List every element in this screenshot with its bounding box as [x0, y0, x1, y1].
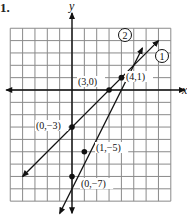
- label-point-1-neg5: (1,−5): [96, 142, 121, 154]
- label-point-3-0: (3,0): [78, 76, 97, 88]
- label-point-4-1: (4,1): [126, 71, 145, 83]
- y-axis-label: y: [68, 0, 75, 13]
- label-point-0-neg3: (0,−3): [36, 120, 61, 132]
- label-point-0-neg7: (0,−7): [81, 178, 106, 190]
- x-axis-label: x: [181, 83, 187, 97]
- point-dot: [69, 174, 75, 180]
- point-dot: [106, 87, 112, 93]
- line-1: [23, 41, 159, 177]
- point-dot: [119, 75, 125, 81]
- point-dot: [69, 124, 75, 130]
- line-2-label: 2: [123, 30, 128, 41]
- grid: [10, 28, 171, 201]
- coordinate-graph: yx (3,0)(4,1)(0,−3)(1,−5)(0,−7)21: [0, 0, 187, 216]
- point-dot: [82, 149, 88, 155]
- line-1-label: 1: [160, 51, 165, 62]
